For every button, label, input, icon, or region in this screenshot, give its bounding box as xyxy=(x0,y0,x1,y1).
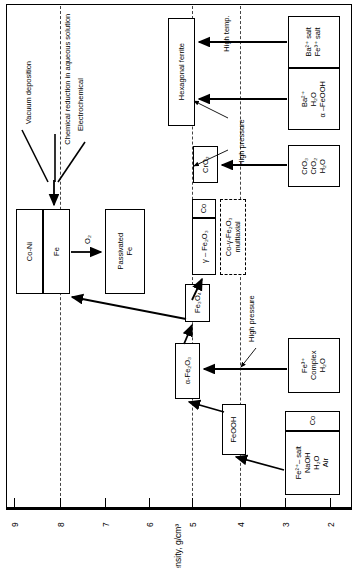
box-fe-label: Fe xyxy=(52,247,61,256)
label-electrochemical: Electrochemical xyxy=(48,72,114,138)
axis-title: Bulk density, g/cm³ xyxy=(128,540,228,550)
box-fe3o4: Fe₃O₄ xyxy=(185,284,210,322)
box-fe: Fe xyxy=(43,209,70,294)
label-high-pressure-lower: High pressure xyxy=(222,288,282,348)
axis-tick xyxy=(14,498,15,508)
box-co-ni-label: Co-Ni xyxy=(25,242,34,261)
box-feooh-label: FeOOH xyxy=(229,417,238,443)
box-alpha-fe2o3: α-Fe₂O₃ xyxy=(175,343,200,399)
box-cro3-source-line2: CrO₂ xyxy=(310,158,319,175)
axis-tick xyxy=(285,498,286,508)
box-fe2-salt-source: Fe²⁺– salt NaOH H₂O Air xyxy=(285,431,340,495)
box-co-coating-label: Co xyxy=(199,204,208,214)
axis-tick xyxy=(60,498,61,508)
box-fe3-complex: Fe³⁺ Complex H₂O xyxy=(288,338,340,393)
box-alpha-fe2o3-label: α-Fe₂O₃ xyxy=(183,357,192,384)
diagram-canvas: Co-Ni Fe Passivated Fe Hexagonal ferrite… xyxy=(0,0,360,568)
label-high-pressure-upper: High pressure xyxy=(212,112,272,172)
box-co-bottom: Co xyxy=(285,411,340,431)
axis-tick-label: 8 xyxy=(54,515,68,525)
box-ba-fe-salt-line2: Fe³⁺ salt xyxy=(314,27,323,56)
box-co-gamma-multiaxial: Co-γ-Fe₂O₃ multiaxial xyxy=(220,199,246,275)
box-feooh: FeOOH xyxy=(222,404,246,455)
box-hexagonal-ferrite: Hexagonal ferrite xyxy=(168,18,195,126)
axis-tick xyxy=(149,498,150,508)
box-co-ni: Co-Ni xyxy=(16,209,43,294)
label-o2: O₂ xyxy=(78,230,98,250)
axis-tick-label: 4 xyxy=(234,515,248,525)
axis-tick xyxy=(105,498,106,508)
axis-tick xyxy=(192,498,193,508)
axis-tick xyxy=(240,498,241,508)
axis-tick-label: 2 xyxy=(324,515,338,525)
box-fe2-salt-line4: Air xyxy=(321,446,330,479)
box-co-coating: Co xyxy=(192,199,216,218)
box-passivated-fe-line1: Passivated xyxy=(116,233,125,270)
box-passivated-fe: Passivated Fe xyxy=(105,209,145,294)
box-passivated-fe-line2: Fe xyxy=(125,233,134,270)
box-cro3-source-line3: H₂O xyxy=(318,158,327,175)
axis-tick-label: 6 xyxy=(143,515,157,525)
box-cro2-product-label: CrO₂ xyxy=(201,156,210,173)
axis-tick xyxy=(330,498,331,508)
box-ba-feooh: Ba²⁺ H₂O α –FeOOH xyxy=(288,68,340,130)
axis-tick-label: 7 xyxy=(99,515,113,525)
box-co-bottom-label: Co xyxy=(308,416,317,426)
box-gamma-fe2o3: γ – Fe₂O₃ xyxy=(192,218,216,275)
box-co-gamma-multiaxial-line2: multiaxial xyxy=(233,218,242,257)
axis-tick-label: 5 xyxy=(186,515,200,525)
box-fe3-complex-line3: H₂O xyxy=(318,351,327,381)
axis-tick-label: 3 xyxy=(279,515,293,525)
box-cro3-source: CrO₃ CrO₂ H₂O xyxy=(288,145,340,187)
box-hexagonal-ferrite-label: Hexagonal ferrite xyxy=(177,43,186,100)
box-fe3o4-label: Fe₃O₄ xyxy=(193,293,202,314)
label-high-temp: High temp. xyxy=(206,18,246,58)
box-ba-feooh-line3: α –FeOOH xyxy=(318,81,327,117)
box-ba-fe-salt: Ba²⁺ salt Fe³⁺ salt xyxy=(288,16,340,68)
box-gamma-fe2o3-label: γ – Fe₂O₃ xyxy=(199,230,208,263)
axis-tick-label: 9 xyxy=(8,515,22,525)
